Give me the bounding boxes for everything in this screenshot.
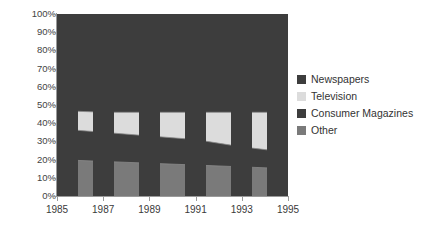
legend-swatch-icon <box>297 109 306 118</box>
legend-item[interactable]: Newspapers <box>297 71 425 87</box>
y-axis-tick-label: 70% <box>4 64 56 74</box>
year-band <box>185 14 206 196</box>
year-band <box>139 14 160 196</box>
x-axis-tick-label: 1991 <box>173 204 219 216</box>
x-axis-tick-label: 1987 <box>80 204 126 216</box>
chart-figure: 0%10%20%30%40%50%60%70%80%90%100% 198519… <box>0 0 426 231</box>
y-axis-tick-label: 30% <box>4 136 56 146</box>
y-axis-tick-label: 80% <box>4 45 56 55</box>
year-band <box>267 14 288 196</box>
legend-swatch-icon <box>297 92 306 101</box>
legend-item-label: Newspapers <box>311 73 369 85</box>
year-band <box>93 14 114 196</box>
x-axis-tick-label: 1985 <box>34 204 80 216</box>
y-axis-tick-label: 20% <box>4 155 56 165</box>
year-band <box>231 14 252 196</box>
legend-item-label: Other <box>311 124 337 136</box>
x-axis-tick-mark <box>288 197 289 201</box>
x-axis-tick-mark <box>57 197 58 201</box>
x-axis-tick-mark <box>242 197 243 201</box>
legend-item[interactable]: Consumer Magazines <box>297 105 425 121</box>
y-axis: 0%10%20%30%40%50%60%70%80%90%100% <box>0 0 56 231</box>
x-axis-tick-mark <box>103 197 104 201</box>
plot-area <box>57 14 288 196</box>
x-axis-tick-label: 1989 <box>126 204 172 216</box>
y-axis-tick-label: 0% <box>4 191 56 201</box>
legend-swatch-icon <box>297 126 306 135</box>
y-axis-tick-label: 90% <box>4 27 56 37</box>
y-axis-tick-label: 10% <box>4 173 56 183</box>
x-axis-tick-mark <box>196 197 197 201</box>
y-axis-tick-label: 60% <box>4 82 56 92</box>
x-axis-tick-label: 1995 <box>265 204 311 216</box>
y-axis-tick-label: 40% <box>4 118 56 128</box>
y-axis-tick-label: 100% <box>4 9 56 19</box>
x-axis-line <box>56 196 289 197</box>
year-band <box>57 14 78 196</box>
chart-legend: NewspapersTelevisionConsumer MagazinesOt… <box>297 71 425 139</box>
legend-item-label: Consumer Magazines <box>311 107 413 119</box>
legend-swatch-icon <box>297 75 306 84</box>
x-axis-tick-mark <box>149 197 150 201</box>
stacked-area-series <box>57 14 288 196</box>
legend-item[interactable]: Television <box>297 88 425 104</box>
legend-item[interactable]: Other <box>297 122 425 138</box>
legend-item-label: Television <box>311 90 357 102</box>
x-axis-tick-label: 1993 <box>219 204 265 216</box>
y-axis-tick-label: 50% <box>4 100 56 110</box>
